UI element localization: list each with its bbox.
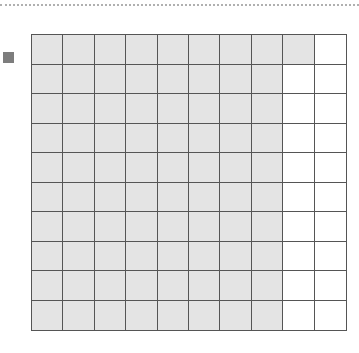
shaded-cell	[95, 212, 126, 242]
shaded-cell	[220, 301, 251, 331]
shaded-cell	[32, 94, 63, 124]
shaded-cell	[63, 242, 94, 272]
empty-cell	[315, 153, 346, 183]
shaded-cell	[32, 301, 63, 331]
empty-cell	[315, 183, 346, 213]
shaded-cell	[189, 153, 220, 183]
empty-cell	[283, 301, 314, 331]
shaded-cell	[126, 271, 157, 301]
shaded-cell	[158, 153, 189, 183]
empty-cell	[283, 153, 314, 183]
shaded-cell	[63, 124, 94, 154]
shaded-cell	[126, 301, 157, 331]
empty-cell	[283, 65, 314, 95]
shaded-cell	[95, 35, 126, 65]
shaded-cell	[158, 124, 189, 154]
shaded-cell	[126, 212, 157, 242]
shaded-cell	[158, 271, 189, 301]
shaded-cell	[189, 35, 220, 65]
empty-cell	[283, 94, 314, 124]
legend-square-icon	[3, 52, 14, 63]
shaded-cell	[32, 65, 63, 95]
shaded-cell	[252, 94, 283, 124]
shaded-cell	[220, 183, 251, 213]
shaded-cell	[158, 301, 189, 331]
shaded-cell	[95, 65, 126, 95]
shaded-cell	[95, 124, 126, 154]
shaded-cell	[252, 65, 283, 95]
shaded-cell	[63, 153, 94, 183]
shaded-cell	[32, 35, 63, 65]
shaded-cell	[189, 94, 220, 124]
shaded-cell	[158, 65, 189, 95]
shaded-cell	[95, 153, 126, 183]
shaded-cell	[95, 301, 126, 331]
hundred-grid	[31, 34, 347, 331]
shaded-cell	[189, 65, 220, 95]
shaded-cell	[126, 183, 157, 213]
shaded-cell	[158, 183, 189, 213]
shaded-cell	[126, 242, 157, 272]
shaded-cell	[63, 212, 94, 242]
shaded-cell	[220, 242, 251, 272]
shaded-cell	[63, 94, 94, 124]
shaded-cell	[63, 65, 94, 95]
shaded-cell	[252, 153, 283, 183]
shaded-cell	[95, 242, 126, 272]
shaded-cell	[220, 153, 251, 183]
top-divider	[0, 4, 359, 6]
empty-cell	[283, 183, 314, 213]
shaded-cell	[220, 124, 251, 154]
empty-cell	[315, 271, 346, 301]
shaded-cell	[252, 271, 283, 301]
shaded-cell	[126, 124, 157, 154]
empty-cell	[283, 212, 314, 242]
shaded-cell	[126, 35, 157, 65]
shaded-cell	[252, 35, 283, 65]
shaded-cell	[220, 94, 251, 124]
shaded-cell	[126, 153, 157, 183]
empty-cell	[315, 301, 346, 331]
shaded-cell	[32, 271, 63, 301]
empty-cell	[315, 242, 346, 272]
shaded-cell	[189, 212, 220, 242]
shaded-cell	[252, 124, 283, 154]
shaded-cell	[63, 271, 94, 301]
empty-cell	[315, 35, 346, 65]
shaded-cell	[189, 242, 220, 272]
shaded-cell	[95, 271, 126, 301]
shaded-cell	[32, 183, 63, 213]
shaded-cell	[32, 242, 63, 272]
shaded-cell	[220, 212, 251, 242]
shaded-cell	[63, 301, 94, 331]
empty-cell	[315, 94, 346, 124]
shaded-cell	[189, 183, 220, 213]
shaded-cell	[252, 301, 283, 331]
empty-cell	[283, 271, 314, 301]
empty-cell	[315, 212, 346, 242]
shaded-cell	[158, 242, 189, 272]
empty-cell	[283, 242, 314, 272]
shaded-cell	[126, 94, 157, 124]
shaded-cell	[252, 212, 283, 242]
shaded-cell	[95, 94, 126, 124]
shaded-cell	[158, 94, 189, 124]
shaded-cell	[189, 301, 220, 331]
shaded-cell	[95, 183, 126, 213]
shaded-cell	[32, 153, 63, 183]
empty-cell	[315, 65, 346, 95]
shaded-cell	[283, 35, 314, 65]
shaded-cell	[189, 124, 220, 154]
shaded-cell	[252, 242, 283, 272]
shaded-cell	[32, 212, 63, 242]
shaded-cell	[220, 35, 251, 65]
shaded-cell	[126, 65, 157, 95]
shaded-cell	[189, 271, 220, 301]
shaded-cell	[63, 35, 94, 65]
shaded-cell	[220, 65, 251, 95]
empty-cell	[283, 124, 314, 154]
shaded-cell	[220, 271, 251, 301]
shaded-cell	[63, 183, 94, 213]
empty-cell	[315, 124, 346, 154]
shaded-cell	[32, 124, 63, 154]
